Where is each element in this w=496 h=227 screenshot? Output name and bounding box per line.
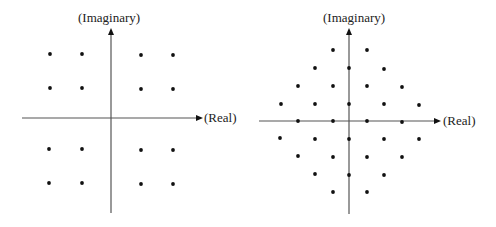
constellation-point bbox=[400, 155, 404, 159]
constellation-point bbox=[80, 147, 84, 151]
constellation-point bbox=[382, 137, 386, 141]
constellation-diagram-2 bbox=[259, 28, 441, 214]
constellation-point bbox=[365, 48, 369, 52]
constellation-point bbox=[296, 154, 300, 158]
constellation-point bbox=[139, 148, 143, 152]
constellation-point bbox=[331, 84, 335, 88]
constellation-point bbox=[400, 120, 404, 124]
imaginary-axis-label: (Imaginary) bbox=[78, 11, 140, 24]
imaginary-axis-arrow-icon bbox=[346, 28, 352, 35]
constellation-point bbox=[47, 181, 51, 185]
constellation-point bbox=[313, 102, 317, 106]
constellation-point bbox=[80, 86, 84, 90]
constellation-point bbox=[313, 172, 317, 176]
imaginary-axis-label: (Imaginary) bbox=[323, 11, 385, 24]
constellation-point bbox=[48, 52, 52, 56]
constellation-point bbox=[331, 48, 335, 52]
constellation-point bbox=[365, 155, 369, 159]
constellation-point bbox=[80, 52, 84, 56]
constellation-point bbox=[347, 173, 351, 177]
constellation-point bbox=[331, 155, 335, 159]
real-axis-label: (Real) bbox=[443, 114, 475, 127]
constellation-point bbox=[48, 86, 52, 90]
constellation-point bbox=[171, 53, 175, 57]
constellation-point bbox=[47, 147, 51, 151]
constellation-point bbox=[278, 136, 282, 140]
constellation-point bbox=[171, 87, 175, 91]
constellation-diagram-1 bbox=[22, 28, 203, 213]
constellation-point bbox=[382, 67, 386, 71]
constellation-point bbox=[296, 84, 300, 88]
constellation-point bbox=[171, 148, 175, 152]
constellation-point bbox=[365, 190, 369, 194]
constellation-point bbox=[417, 103, 421, 107]
constellation-point bbox=[347, 102, 351, 106]
constellation-point bbox=[313, 137, 317, 141]
constellation-point bbox=[365, 119, 369, 123]
constellation-point bbox=[279, 102, 283, 106]
constellation-point bbox=[139, 53, 143, 57]
constellation-point bbox=[171, 182, 175, 186]
constellation-point bbox=[365, 84, 369, 88]
constellation-point bbox=[382, 173, 386, 177]
constellation-point bbox=[296, 119, 300, 123]
constellation-point bbox=[400, 85, 404, 89]
constellation-point bbox=[80, 181, 84, 185]
real-axis-label: (Real) bbox=[204, 111, 236, 124]
constellation-point bbox=[382, 102, 386, 106]
real-axis-arrow-icon bbox=[196, 115, 203, 121]
constellation-point bbox=[347, 137, 351, 141]
constellation-diagrams bbox=[0, 0, 496, 227]
constellation-point bbox=[313, 66, 317, 70]
real-axis-arrow-icon bbox=[434, 118, 441, 124]
constellation-point bbox=[331, 190, 335, 194]
constellation-point bbox=[417, 137, 421, 141]
constellation-point bbox=[331, 119, 335, 123]
imaginary-axis-arrow-icon bbox=[108, 28, 114, 35]
constellation-point bbox=[347, 66, 351, 70]
constellation-point bbox=[139, 182, 143, 186]
constellation-point bbox=[139, 87, 143, 91]
